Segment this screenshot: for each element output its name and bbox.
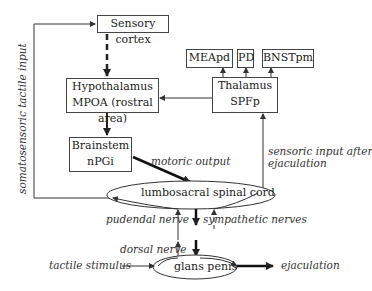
spinal-cord-label: lumbosacral spinal cord xyxy=(141,186,275,199)
sensory-cortex-label: Sensory cortex xyxy=(111,17,156,46)
somatosensoric-label: somatosensoric tactile input xyxy=(16,43,28,194)
sympathetic-nerves-label: sympathetic nerves xyxy=(203,213,307,225)
bnstpm-box: BNSTpm xyxy=(262,49,314,68)
ejaculation-label: ejaculation xyxy=(281,259,340,271)
hypothalamus-label: Hypothalamus xyxy=(67,79,158,95)
motoric-output-label: motoric output xyxy=(151,155,230,167)
meapd-label: MEApd xyxy=(189,51,230,64)
sensoric-after-label-2: ejaculation xyxy=(268,157,327,169)
dorsal-nerve-label: dorsal nerve xyxy=(120,243,187,255)
glans-penis-label: glans penis xyxy=(174,260,237,273)
pudendal-nerve-label: pudendal nerve xyxy=(106,213,189,225)
bnstpm-label: BNSTpm xyxy=(263,51,313,64)
pd-box: PD xyxy=(237,49,254,68)
sensoric-after-label-1: sensoric input after xyxy=(268,145,372,157)
thalamus-box: Thalamus SPFp xyxy=(212,77,278,113)
meapd-box: MEApd xyxy=(186,49,233,68)
hypothalamus-box: Hypothalamus MPOA (rostral area) xyxy=(66,78,159,113)
thalamus-label: Thalamus xyxy=(213,78,277,94)
tactile-stimulus-label: tactile stimulus xyxy=(49,259,131,271)
sensoric-after-path xyxy=(258,114,263,193)
pd-label: PD xyxy=(238,51,254,64)
spfp-label: SPFp xyxy=(213,94,277,110)
brainstem-box: Brainstem nPGi xyxy=(69,137,132,172)
npgi-label: nPGi xyxy=(70,154,131,170)
brainstem-label: Brainstem xyxy=(70,138,131,154)
sensory-cortex-box: Sensory cortex xyxy=(97,15,169,33)
mpoa-label: MPOA (rostral area) xyxy=(67,95,158,127)
